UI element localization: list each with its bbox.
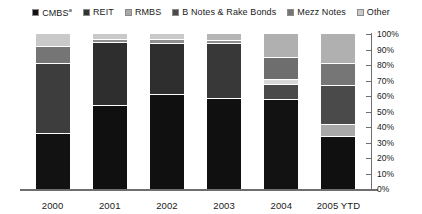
bar-2001[interactable] (93, 34, 127, 189)
legend-label-superscript: a (69, 7, 72, 13)
y-axis-tick-label: 100% (377, 30, 399, 39)
bar-segment[interactable] (321, 63, 355, 85)
y-axis-tick-mark (366, 127, 371, 128)
x-axis-label-cell: 2005 YTD (310, 195, 367, 211)
y-axis-tick-mark (366, 96, 371, 97)
bar-segment[interactable] (150, 94, 184, 189)
y-axis-tick-mark (366, 158, 371, 159)
y-axis-tick-mark (366, 81, 371, 82)
x-axis-label-cell: 2003 (196, 195, 253, 211)
x-axis-label-cell: 2001 (81, 195, 138, 211)
legend-label: Mezz Notes (297, 8, 346, 17)
bar-segment[interactable] (36, 34, 70, 46)
bar-2003[interactable] (207, 34, 241, 189)
bar-segment[interactable] (264, 99, 298, 189)
x-axis-label: 2000 (42, 200, 64, 211)
legend-item-reit[interactable]: REIT (83, 8, 114, 17)
stacked-bar-chart: CMBSaREITRMBSB Notes & Rake BondsMezz No… (0, 0, 422, 214)
bar-segment[interactable] (321, 34, 355, 63)
bar-segment[interactable] (321, 85, 355, 124)
bar-column (138, 34, 195, 189)
legend-swatch-icon (83, 9, 90, 16)
legend-swatch-icon (357, 9, 364, 16)
x-axis-labels: 200020012002200320042005 YTD (24, 195, 367, 211)
x-axis-label: 2002 (156, 200, 178, 211)
plot-area (24, 34, 367, 189)
x-axis-label: 2001 (99, 200, 121, 211)
y-axis-tick-mark (366, 189, 371, 190)
legend-label: RMBS (135, 8, 161, 17)
y-axis-tick-mark (366, 65, 371, 66)
legend-item-other[interactable]: Other (357, 8, 390, 17)
y-axis-tick-label: 30% (377, 138, 394, 147)
bar-column (196, 34, 253, 189)
y-axis-tick-mark (366, 112, 371, 113)
bar-segment[interactable] (36, 133, 70, 189)
bar-2005-ytd[interactable] (321, 34, 355, 189)
y-axis-tick-label: 0% (377, 185, 389, 194)
legend-item-mezz-notes[interactable]: Mezz Notes (287, 8, 346, 17)
legend-item-b-notes-rake-bonds[interactable]: B Notes & Rake Bonds (172, 8, 276, 17)
bar-group (24, 34, 367, 189)
bar-segment[interactable] (207, 43, 241, 97)
x-axis-label: 2004 (271, 200, 293, 211)
bar-segment[interactable] (36, 63, 70, 133)
legend-item-rmbs[interactable]: RMBS (125, 8, 161, 17)
legend-swatch-icon (32, 9, 39, 16)
chart-legend: CMBSaREITRMBSB Notes & Rake BondsMezz No… (0, 6, 422, 18)
bar-segment[interactable] (93, 42, 127, 106)
x-axis-label-cell: 2004 (253, 195, 310, 211)
legend-swatch-icon (287, 9, 294, 16)
y-axis-tick-label: 60% (377, 92, 394, 101)
y-axis-tick-mark (366, 34, 371, 35)
bar-2004[interactable] (264, 34, 298, 189)
bar-segment[interactable] (150, 43, 184, 94)
legend-label: REIT (93, 8, 114, 17)
y-axis-tick-label: 50% (377, 107, 394, 116)
x-axis-line (20, 189, 378, 191)
y-axis-tick-label: 40% (377, 123, 394, 132)
y-axis-tick-label: 90% (377, 45, 394, 54)
bar-segment[interactable] (207, 98, 241, 189)
bar-segment[interactable] (321, 136, 355, 189)
bar-2000[interactable] (36, 34, 70, 189)
x-axis-label-cell: 2002 (138, 195, 195, 211)
legend-label: CMBSa (42, 6, 72, 18)
y-axis-tick-label: 20% (377, 154, 394, 163)
bar-segment[interactable] (264, 34, 298, 57)
legend-label: B Notes & Rake Bonds (182, 8, 276, 17)
x-axis-label: 2003 (213, 200, 235, 211)
y-axis-tick-label: 10% (377, 169, 394, 178)
y-axis-tick-label: 80% (377, 61, 394, 70)
bar-column (253, 34, 310, 189)
bar-segment[interactable] (93, 105, 127, 189)
bar-segment[interactable] (321, 124, 355, 136)
bar-column (24, 34, 81, 189)
y-axis-line (371, 33, 372, 190)
bar-segment[interactable] (36, 46, 70, 63)
x-axis-label: 2005 YTD (317, 200, 360, 211)
legend-label: Other (367, 8, 390, 17)
bar-column (81, 34, 138, 189)
bar-column (310, 34, 367, 189)
x-axis-label-cell: 2000 (24, 195, 81, 211)
bar-2002[interactable] (150, 34, 184, 189)
y-axis-tick-mark (366, 143, 371, 144)
y-axis-tick-label: 70% (377, 76, 394, 85)
legend-item-cmbs[interactable]: CMBSa (32, 6, 72, 18)
legend-swatch-icon (172, 9, 179, 16)
y-axis-tick-mark (366, 50, 371, 51)
bar-segment[interactable] (264, 84, 298, 100)
legend-swatch-icon (125, 9, 132, 16)
y-axis-tick-mark (366, 174, 371, 175)
bar-segment[interactable] (264, 57, 298, 79)
